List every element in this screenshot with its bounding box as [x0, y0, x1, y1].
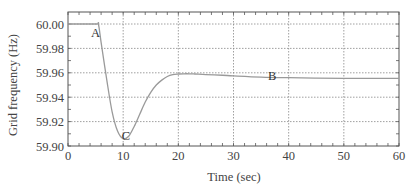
y-axis-tick-labels: 59.9059.9259.9459.9659.9860.00 [36, 18, 65, 154]
y-tick-label: 59.94 [36, 91, 65, 105]
x-tick-label: 60 [393, 149, 406, 163]
annotation-c: C [122, 129, 130, 143]
annotation-a: A [91, 26, 100, 40]
x-tick-label: 10 [117, 149, 130, 163]
grid-lines [68, 12, 399, 146]
x-tick-label: 40 [282, 149, 295, 163]
annotation-b: B [268, 69, 276, 83]
y-tick-label: 60.00 [36, 18, 64, 32]
x-tick-label: 30 [227, 149, 240, 163]
y-tick-label: 59.98 [36, 42, 64, 56]
x-axis-title: Time (sec) [207, 170, 260, 184]
y-tick-label: 59.96 [36, 66, 64, 80]
x-axis-tick-labels: 0102030405060 [65, 149, 405, 163]
y-tick-label: 59.92 [36, 115, 64, 129]
frequency-chart: 0102030405060 59.9059.9259.9459.9659.986… [0, 0, 420, 186]
point-annotations: ABC [91, 26, 276, 143]
y-tick-label: 59.90 [36, 140, 64, 154]
y-axis-title: Grid frequency (Hz) [6, 34, 20, 136]
x-tick-label: 0 [65, 149, 71, 163]
x-tick-label: 20 [172, 149, 185, 163]
x-tick-label: 50 [338, 149, 351, 163]
